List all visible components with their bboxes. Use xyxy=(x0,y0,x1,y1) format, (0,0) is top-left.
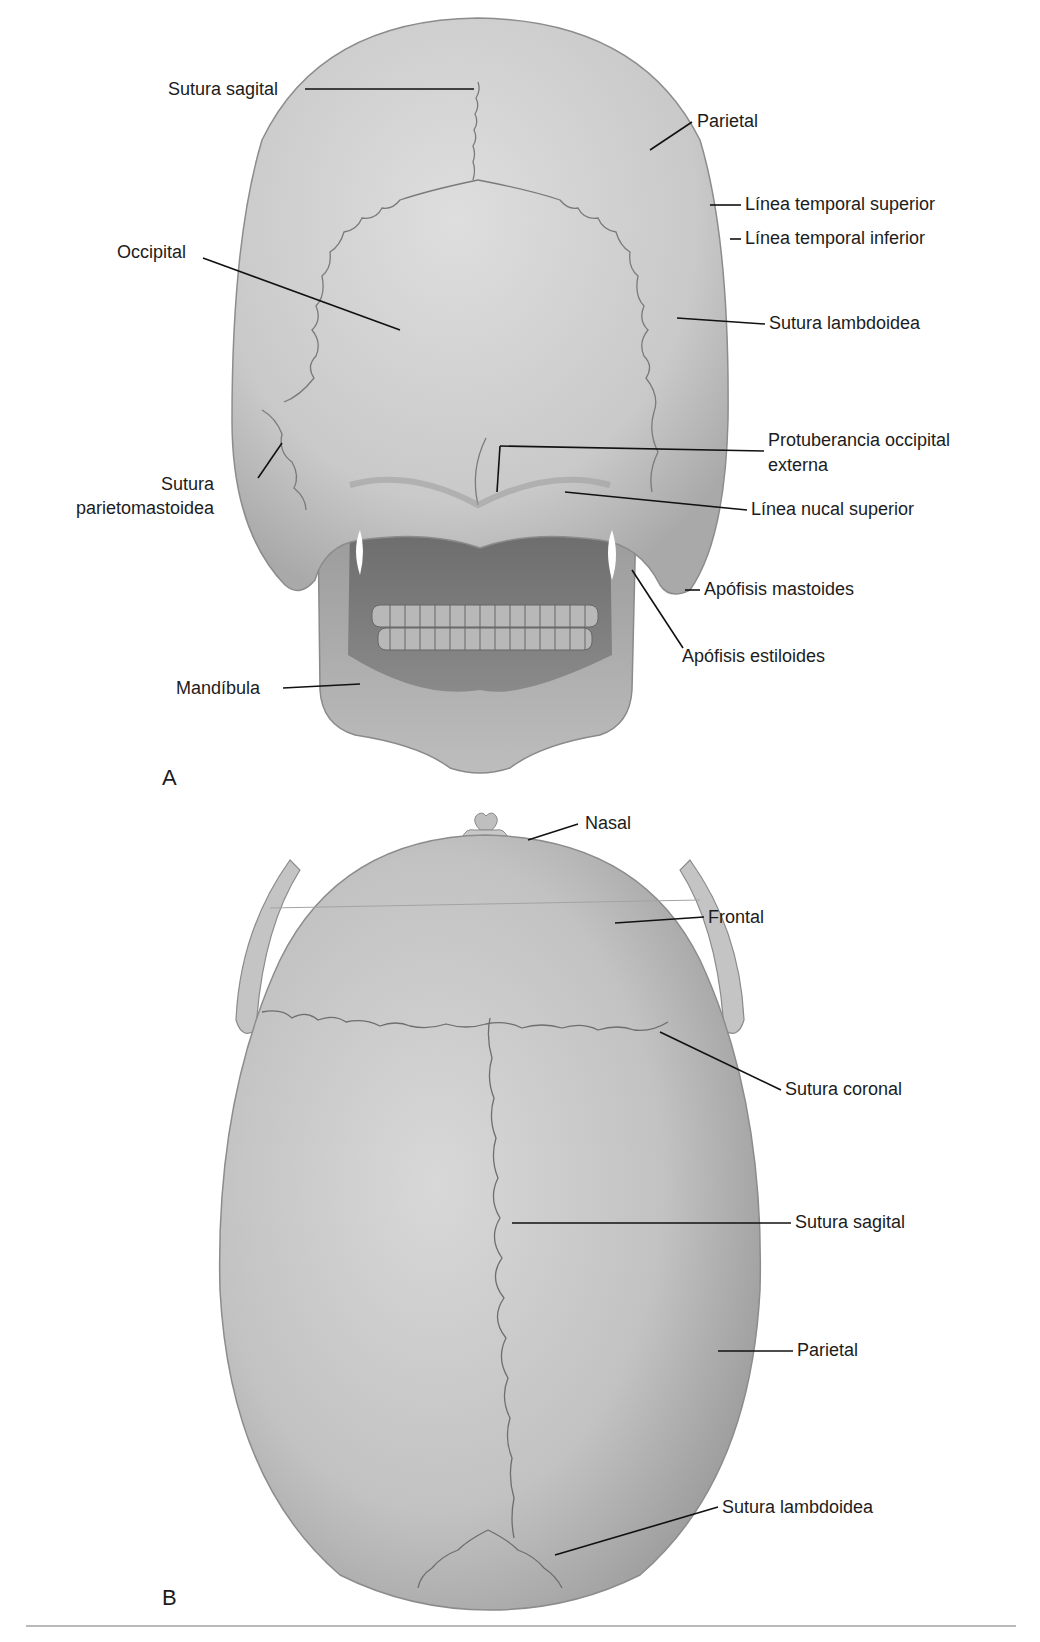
label-frontal: Frontal xyxy=(708,906,764,928)
teeth xyxy=(372,605,598,650)
label-mandibula: Mandíbula xyxy=(176,677,260,699)
label-sutura-lambdoidea-b: Sutura lambdoidea xyxy=(722,1496,873,1518)
label-parietal-a: Parietal xyxy=(697,110,758,132)
label-sutura-parietomastoidea-line1: Sutura xyxy=(150,473,214,495)
label-protuberancia-occipital-externa-line2: externa xyxy=(768,454,828,476)
label-sutura-sagital-b: Sutura sagital xyxy=(795,1211,905,1233)
nasal-bone xyxy=(475,813,498,830)
label-occipital: Occipital xyxy=(117,241,186,263)
label-sutura-lambdoidea-a: Sutura lambdoidea xyxy=(769,312,920,334)
label-linea-temporal-inferior: Línea temporal inferior xyxy=(745,227,925,249)
panel-letter-b: B xyxy=(162,1585,177,1611)
label-nasal: Nasal xyxy=(585,812,631,834)
label-apofisis-estiloides: Apófisis estiloides xyxy=(682,645,825,667)
label-sutura-parietomastoidea-line2: parietomastoidea xyxy=(54,497,214,519)
label-parietal-b: Parietal xyxy=(797,1339,858,1361)
panel-letter-a: A xyxy=(162,765,177,791)
label-sutura-coronal: Sutura coronal xyxy=(785,1078,902,1100)
label-apofisis-mastoides: Apófisis mastoides xyxy=(704,578,854,600)
label-linea-temporal-superior: Línea temporal superior xyxy=(745,193,935,215)
panel-b-skull xyxy=(220,813,761,1610)
label-sutura-sagital-a: Sutura sagital xyxy=(168,78,278,100)
label-protuberancia-occipital-externa-line1: Protuberancia occipital xyxy=(768,429,950,451)
caption-divider xyxy=(26,1625,1016,1627)
label-linea-nucal-superior: Línea nucal superior xyxy=(751,498,914,520)
panel-a-skull xyxy=(232,18,728,773)
